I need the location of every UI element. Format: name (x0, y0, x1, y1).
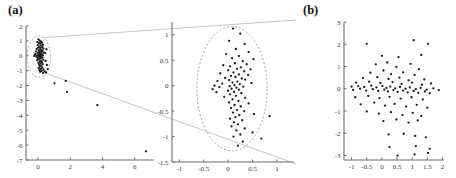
x-tick-label: 6 (133, 163, 137, 171)
x-tick-label: 2 (441, 163, 445, 171)
data-point (413, 90, 415, 92)
x-tick-label: 1.5 (423, 163, 432, 171)
data-point (219, 72, 221, 74)
data-point (237, 100, 239, 102)
data-point (387, 90, 389, 92)
data-point (228, 101, 230, 103)
data-point (229, 118, 231, 120)
y-tick-label: -2 (17, 82, 23, 90)
data-point (224, 77, 226, 79)
data-point (239, 83, 241, 85)
data-point (246, 63, 248, 65)
x-tick-label: -1 (176, 165, 182, 173)
data-point (377, 90, 379, 92)
y-tick-label: 1 (19, 37, 23, 45)
data-point (410, 63, 412, 65)
data-point (384, 105, 386, 107)
data-point (213, 84, 215, 86)
data-point (251, 131, 253, 133)
y-tick-label: -7 (17, 157, 23, 165)
data-point (211, 88, 213, 90)
plot-overview: 210-1-2-3-4-5-6-70246 (17, 23, 154, 171)
data-point (249, 68, 251, 70)
data-point (427, 152, 429, 154)
data-point (389, 85, 391, 87)
data-point (236, 68, 238, 70)
data-point (230, 75, 232, 77)
data-point (229, 65, 231, 67)
y-tick-label: 0 (19, 52, 23, 60)
y-tick-label: -5 (17, 127, 23, 135)
data-point (240, 92, 242, 94)
data-point (399, 86, 401, 88)
data-point (238, 73, 240, 75)
panel-label-a: (a) (8, 3, 23, 18)
data-point (233, 104, 235, 106)
data-point (365, 89, 367, 91)
data-point (378, 97, 380, 99)
data-point (230, 125, 232, 127)
leader-line-bottom (45, 73, 296, 164)
data-point (430, 82, 432, 84)
y-tick-label: -1 (335, 108, 341, 116)
data-point (216, 80, 218, 82)
data-point (66, 91, 68, 93)
data-point (406, 91, 408, 93)
data-point (403, 133, 405, 135)
data-point (414, 135, 416, 137)
data-point (402, 89, 404, 91)
data-point (229, 93, 231, 95)
data-point (233, 121, 235, 123)
y-tick-label: 2 (337, 41, 341, 49)
y-tick-label: 2 (19, 23, 23, 31)
data-point (44, 60, 46, 62)
magnification-leader-lines (44, 20, 296, 164)
data-point (233, 91, 235, 93)
data-point (394, 87, 396, 89)
data-point (231, 81, 233, 83)
data-point (33, 55, 35, 57)
data-point (367, 95, 369, 97)
data-point (398, 76, 400, 78)
data-point (238, 114, 240, 116)
data-point (427, 43, 429, 45)
data-point (45, 71, 47, 73)
data-point (409, 86, 411, 88)
data-point (235, 48, 237, 50)
data-point (233, 84, 235, 86)
y-tick-label: 0.5 (160, 57, 169, 65)
data-point (242, 60, 244, 62)
data-point (236, 109, 238, 111)
data-point (354, 96, 356, 98)
data-point (268, 115, 270, 117)
data-point (375, 86, 377, 88)
data-point (429, 148, 431, 150)
data-point (405, 105, 407, 107)
data-point (411, 81, 413, 83)
y-tick-label: -1.5 (157, 159, 169, 167)
x-tick-label: 0.5 (393, 163, 402, 171)
data-point (392, 89, 394, 91)
data-point (243, 70, 245, 72)
data-point (402, 71, 404, 73)
data-point (378, 113, 380, 115)
data-point (215, 91, 217, 93)
plot-panel-b-scatter: 3210-1-2-3-1-0.500.511.52 (335, 19, 445, 171)
data-point (426, 89, 428, 91)
data-point (423, 78, 425, 80)
data-point (385, 87, 387, 89)
data-point (247, 102, 249, 104)
data-point (429, 92, 431, 94)
data-point (401, 114, 403, 116)
data-point (352, 89, 354, 91)
data-point (359, 88, 361, 90)
data-point (247, 74, 249, 76)
x-tick-label: -0.5 (198, 165, 210, 173)
data-point (415, 88, 417, 90)
panel-label-b: (b) (303, 3, 318, 18)
data-point (397, 56, 399, 58)
data-point (253, 113, 255, 115)
x-tick-label: -1 (349, 163, 355, 171)
data-point (244, 97, 246, 99)
data-point (424, 90, 426, 92)
